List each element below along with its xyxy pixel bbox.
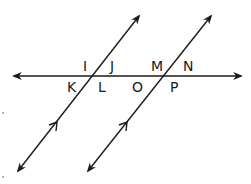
angle-label-l: L [98, 79, 106, 95]
left-parallel-line [18, 16, 139, 171]
angle-label-n: N [183, 58, 193, 74]
stray-dot [2, 176, 4, 178]
angle-label-i: I [83, 58, 87, 74]
stray-dot [2, 112, 4, 114]
right-parallel-line [88, 16, 211, 171]
angle-label-m: M [151, 58, 163, 74]
angle-label-o: O [132, 79, 143, 95]
angle-label-j: J [109, 58, 114, 74]
parallel-lines-diagram: I J M N K L O P [0, 0, 251, 184]
angle-label-p: P [170, 79, 178, 95]
angle-label-k: K [67, 79, 77, 95]
